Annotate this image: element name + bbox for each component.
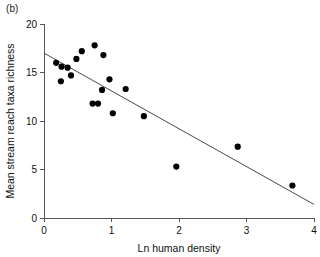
y-axis-title: Mean stream reach taxa richness xyxy=(4,43,16,198)
regression-line xyxy=(44,53,314,204)
data-point xyxy=(65,65,71,71)
data-point xyxy=(235,144,241,150)
x-tick-label: 3 xyxy=(244,225,250,236)
y-tick-label: 0 xyxy=(31,213,37,224)
data-point xyxy=(95,100,101,106)
y-tick-label: 10 xyxy=(26,116,38,127)
data-point xyxy=(90,100,96,106)
data-point xyxy=(53,60,59,66)
data-point xyxy=(99,87,105,93)
y-tick-label: 5 xyxy=(31,164,37,175)
y-tick-label: 20 xyxy=(26,19,38,30)
y-axis-ticks: 05101520 xyxy=(26,19,44,224)
data-point xyxy=(123,86,129,92)
data-point xyxy=(58,78,64,84)
y-tick-label: 15 xyxy=(26,67,38,78)
data-point xyxy=(110,110,116,116)
data-point xyxy=(73,56,79,62)
data-point xyxy=(106,76,112,82)
regression-line-group xyxy=(44,53,314,204)
data-point xyxy=(289,182,295,188)
scatter-plot: 05101520 01234 Ln human density Mean str… xyxy=(0,0,320,257)
data-points-group xyxy=(53,42,295,188)
data-point xyxy=(58,64,64,70)
axes xyxy=(44,24,314,218)
data-point xyxy=(79,48,85,54)
x-tick-label: 1 xyxy=(109,225,115,236)
x-tick-label: 0 xyxy=(41,225,47,236)
figure-panel: (b) 05101520 01234 Ln human density Mean… xyxy=(0,0,320,257)
x-axis-title: Ln human density xyxy=(138,242,222,254)
data-point xyxy=(92,42,98,48)
data-point xyxy=(173,163,179,169)
x-axis-ticks: 01234 xyxy=(41,218,317,236)
x-tick-label: 4 xyxy=(311,225,317,236)
x-tick-label: 2 xyxy=(176,225,182,236)
data-point xyxy=(141,113,147,119)
data-point xyxy=(100,52,106,58)
data-point xyxy=(68,72,74,78)
